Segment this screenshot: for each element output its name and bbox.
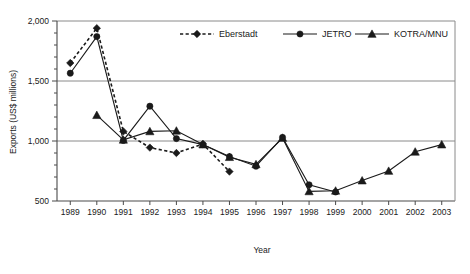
legend-item-eberstadt[interactable]: Eberstadt <box>180 29 258 39</box>
x-tick-label-1991: 1991 <box>114 207 133 217</box>
y-tick-label-500: 500 <box>35 196 49 206</box>
x-tick-label-2001: 2001 <box>379 207 398 217</box>
x-axis-title: Year <box>253 245 270 255</box>
legend-item-jetro[interactable]: JETRO <box>283 29 352 39</box>
x-tick-label-1998: 1998 <box>300 207 319 217</box>
legend-sample-marker <box>193 30 200 37</box>
x-tick-label-1992: 1992 <box>140 207 159 217</box>
legend-sample-marker <box>297 31 303 37</box>
x-tick-label-2000: 2000 <box>353 207 372 217</box>
data-point-1989 <box>67 59 74 66</box>
y-tick-label-2000: 2,000 <box>28 16 50 26</box>
data-point-2000 <box>358 177 366 184</box>
x-tick-label-1995: 1995 <box>220 207 239 217</box>
axes <box>57 21 455 201</box>
data-series <box>67 25 446 196</box>
y-axis-title: Exports (US$ millions) <box>8 70 18 154</box>
y-tick-label-1500: 1,500 <box>28 76 50 86</box>
data-point-1990 <box>94 34 100 40</box>
x-tick-label-1990: 1990 <box>87 207 106 217</box>
data-point-2001 <box>385 167 393 174</box>
x-tick-label-1994: 1994 <box>193 207 212 217</box>
y-tick-label-1000: 1,000 <box>28 136 50 146</box>
x-tick-label-1993: 1993 <box>167 207 186 217</box>
x-axis-ticks: 1989199019911992199319941995199619971998… <box>61 201 452 217</box>
series-line-segment-0 <box>97 115 442 191</box>
x-tick-label-2002: 2002 <box>406 207 425 217</box>
data-point-1989 <box>67 70 73 76</box>
series-line-segment-0 <box>70 37 335 192</box>
y-axis-ticks: 5001,0001,5002,000 <box>28 16 57 206</box>
chart-legend: EberstadtJETROKOTRA/MNU <box>180 29 448 39</box>
data-point-1992 <box>147 103 153 109</box>
x-tick-label-1999: 1999 <box>326 207 345 217</box>
legend-label: Eberstadt <box>219 29 258 39</box>
legend-item-kotra-mnu[interactable]: KOTRA/MNU <box>355 29 448 39</box>
data-point-1993 <box>173 149 180 156</box>
data-point-2003 <box>438 141 446 148</box>
series-kotra-mnu <box>93 111 446 195</box>
x-tick-label-1989: 1989 <box>61 207 80 217</box>
exports-line-chart: 5001,0001,5002,000 198919901991199219931… <box>0 0 470 274</box>
x-tick-label-1997: 1997 <box>273 207 292 217</box>
x-tick-label-2003: 2003 <box>432 207 451 217</box>
chart-container: 5001,0001,5002,000 198919901991199219931… <box>0 0 470 274</box>
series-jetro <box>67 34 339 196</box>
x-tick-label-1996: 1996 <box>247 207 266 217</box>
series-eberstadt <box>67 25 234 176</box>
data-point-1992 <box>146 144 153 151</box>
data-point-1993 <box>173 136 179 142</box>
legend-label: JETRO <box>322 29 352 39</box>
data-point-1990 <box>93 111 101 118</box>
legend-label: KOTRA/MNU <box>394 29 448 39</box>
